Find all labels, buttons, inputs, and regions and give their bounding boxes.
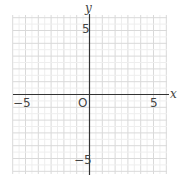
x-tick-neg5: −5 [13,96,31,110]
x-axis-label: x [170,87,177,101]
y-tick-neg5: −5 [74,153,92,167]
coordinate-plane: x y O −5 5 5 −5 [0,0,182,188]
x-tick-5: 5 [150,96,158,110]
y-tick-5: 5 [82,22,90,36]
y-axis-label: y [84,1,92,15]
origin-label: O [78,96,87,110]
coordinate-grid-svg: x y O −5 5 5 −5 [0,0,182,188]
